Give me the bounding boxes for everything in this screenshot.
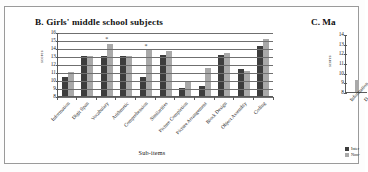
bar [263, 39, 269, 96]
panel-b-x-axis-label: Sub-items [11, 149, 293, 156]
x-category-label: Coding [253, 101, 267, 115]
legend-label: Inter [351, 147, 359, 151]
y-tick-label: 13 [51, 54, 56, 59]
legend-swatch-nonintervention-icon [345, 153, 349, 157]
y-tickmark [344, 74, 347, 75]
y-tickmark [344, 64, 347, 65]
y-tickmark [344, 35, 347, 36]
panel-c-category-label-second: D [363, 96, 368, 102]
y-tick-label: 10 [339, 71, 344, 76]
y-tick-label: 10 [51, 78, 56, 83]
panel-b-category-labels: InformationDigit SpanVocabularyArithmeti… [57, 101, 273, 145]
gridline [58, 33, 273, 34]
bar [68, 72, 74, 96]
x-category-label-cell: Vocabulary [96, 101, 116, 145]
y-tickmark [56, 73, 59, 74]
x-category-label-cell: Information [57, 101, 77, 145]
y-tickmark [344, 83, 347, 84]
panel-b-title: B. Girls' middle school subjects [35, 17, 163, 27]
y-tick-label: 8 [341, 90, 344, 95]
x-category-label-cell: Comprehension [136, 101, 156, 145]
chart-panel-b: B. Girls' middle school subjects scores … [11, 11, 293, 169]
bar [244, 71, 250, 96]
figure-area: B. Girls' middle school subjects scores … [11, 11, 358, 163]
legend-label: Non- [351, 153, 360, 157]
gridline [58, 41, 273, 42]
legend-item: Non- [345, 153, 360, 157]
y-tick-label: 14 [339, 32, 344, 37]
panel-b-plot-area: ** 8910111213141516 [57, 33, 273, 97]
x-category-label-cell: Coding [253, 101, 273, 145]
page-frame: B. Girls' middle school subjects scores … [4, 6, 359, 164]
panel-c-legend: Inter Non- [345, 147, 360, 159]
panel-c-y-axis-label: scores [327, 56, 332, 67]
chart-panel-c: C. Ma scores 891011121314 Information D … [293, 11, 368, 169]
x-category-label-cell: Object Assembly [234, 101, 254, 145]
y-tickmark [56, 41, 59, 42]
y-tick-label: 9 [341, 81, 344, 86]
gridline [58, 97, 273, 98]
x-category-label: Information [50, 101, 70, 122]
y-tick-label: 16 [51, 30, 56, 35]
y-tickmark [56, 81, 59, 82]
x-category-label-cell: Digit Span [77, 101, 97, 145]
gridline [58, 57, 273, 58]
y-tick-label: 12 [51, 62, 56, 67]
y-tick-label: 11 [51, 70, 56, 75]
y-tick-label: 13 [339, 42, 344, 47]
y-tick-label: 11 [339, 61, 344, 66]
legend-item: Inter [345, 147, 360, 151]
gridline [58, 81, 273, 82]
y-tick-label: 15 [51, 38, 56, 43]
gridline [58, 73, 273, 74]
bar [87, 56, 93, 96]
y-tickmark [56, 49, 59, 50]
y-tick-label: 14 [51, 46, 56, 51]
y-tick-label: 12 [339, 52, 344, 57]
y-tickmark [344, 54, 347, 55]
y-tick-label: 9 [53, 86, 56, 91]
bar [126, 56, 132, 96]
panel-b-y-axis-label: scores [39, 50, 44, 63]
y-tickmark [344, 45, 347, 46]
y-tickmark [344, 93, 347, 94]
y-tickmark [56, 57, 59, 58]
legend-swatch-intervention-icon [345, 147, 349, 151]
gridline [58, 65, 273, 66]
gridline [58, 89, 273, 90]
panel-c-title: C. Ma [311, 17, 336, 27]
y-tickmark [56, 65, 59, 66]
y-tickmark [56, 89, 59, 90]
y-tickmark [56, 33, 59, 34]
x-category-label-cell: Picture Arrangement [194, 101, 214, 145]
gridline [58, 49, 273, 50]
